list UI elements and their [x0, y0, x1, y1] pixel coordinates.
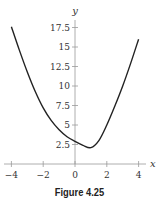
y-tick-label: 7.5 — [56, 101, 71, 111]
chart: −4−20242.557.51012.51517.5xy — [0, 0, 159, 205]
y-tick-label: 2.5 — [56, 140, 71, 150]
x-tick-label: −4 — [5, 170, 19, 180]
x-tick-label: 2 — [104, 170, 110, 180]
x-axis-label: x — [150, 158, 156, 169]
x-tick-label: 0 — [72, 170, 78, 180]
x-tick-label: 4 — [136, 170, 142, 180]
y-tick-label: 10 — [59, 81, 71, 91]
y-tick-label: 15 — [59, 42, 71, 52]
y-axis-label: y — [71, 5, 78, 16]
y-tick-label: 5 — [64, 120, 70, 130]
x-tick-label: −2 — [37, 170, 50, 180]
y-tick-label: 12.5 — [50, 62, 70, 72]
y-tick-label: 17.5 — [50, 23, 70, 33]
figure-caption: Figure 4.25 — [12, 186, 147, 198]
